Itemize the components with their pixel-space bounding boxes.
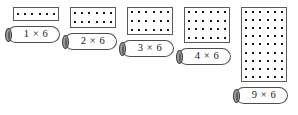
array-dot [96,12,98,14]
array-dot [202,28,204,30]
array-dot [167,29,169,31]
array-dot [252,76,254,78]
array-dot [160,11,162,13]
array-dot [259,19,261,21]
array-dot [81,21,83,23]
array-dot [81,12,83,14]
array-dot [252,19,254,21]
array-label-text: 1 × 6 [19,29,49,40]
array-dot [138,11,140,13]
array-dot [188,11,190,13]
array-dot [188,28,190,30]
array-dot [217,28,219,30]
array-dot [274,60,276,62]
array-dot [281,68,283,70]
array-dot [274,27,276,29]
array-dot [224,28,226,30]
array-dot [267,19,269,21]
array-dot [252,43,254,45]
array-dot [131,20,133,22]
array-dot [281,11,283,13]
scroll-cap-icon [233,89,240,103]
array-label-scroll: 2 × 6 [64,33,117,50]
array-label-scroll: 9 × 6 [235,87,288,104]
array-dot [145,20,147,22]
array-dot [281,60,283,62]
array-dot [46,13,48,15]
array-dot [103,12,105,14]
scroll-cap-icon [5,28,12,42]
dot-array-grid [127,7,173,35]
dot-array-grid [70,7,116,28]
array-dot [195,28,197,30]
array-label-scroll: 3 × 6 [121,40,174,57]
array-dot [88,21,90,23]
array-dot [267,35,269,37]
array-dot [274,76,276,78]
array-dot [210,11,212,13]
array-dot [245,43,247,45]
array-label-scroll: 4 × 6 [178,48,231,65]
array-dot [245,52,247,54]
array-dot [88,12,90,14]
array-dot [274,19,276,21]
array-dot [188,37,190,39]
array-dot [245,68,247,70]
array-dot [259,68,261,70]
dot-array-grid [13,7,59,21]
array-dot [259,76,261,78]
array-dot [110,12,112,14]
array-dot [202,37,204,39]
array-dot [252,68,254,70]
array-dot [267,11,269,13]
array-dot [245,19,247,21]
array-dot [160,20,162,22]
array-dot [267,52,269,54]
array-dot [167,11,169,13]
array-dot [217,11,219,13]
array-dot [274,35,276,37]
array-dot [267,76,269,78]
array-dot [74,21,76,23]
array-dot [259,52,261,54]
array-dot [252,35,254,37]
array-dot [281,43,283,45]
array-dot [267,60,269,62]
array-dot [210,37,212,39]
array-dot [17,13,19,15]
array-dot [252,52,254,54]
array-dot [96,21,98,23]
array-dot [274,68,276,70]
array-dot [31,13,33,15]
array-dot [195,37,197,39]
array-dot [245,35,247,37]
array-dot [281,76,283,78]
array-dot [259,27,261,29]
array-dot [24,13,26,15]
array-dot [153,11,155,13]
array-dot [210,20,212,22]
array-dot [245,76,247,78]
array-label-text: 2 × 6 [76,36,106,47]
array-dot [252,60,254,62]
array-label-scroll: 1 × 6 [7,26,60,43]
array-label-text: 4 × 6 [190,51,220,62]
array-dot [153,20,155,22]
array-diagram-canvas: 1 × 62 × 63 × 64 × 69 × 6 [0,0,298,115]
array-dot [245,11,247,13]
array-dot [74,12,76,14]
array-dot [224,37,226,39]
array-dot [39,13,41,15]
array-dot [145,29,147,31]
array-dot [281,52,283,54]
array-dot [138,29,140,31]
array-dot [53,13,55,15]
array-dot [138,20,140,22]
array-label-text: 9 × 6 [247,90,277,101]
array-dot [217,20,219,22]
array-dot [259,43,261,45]
array-dot [153,29,155,31]
array-dot [281,19,283,21]
array-dot [267,27,269,29]
array-dot [281,35,283,37]
